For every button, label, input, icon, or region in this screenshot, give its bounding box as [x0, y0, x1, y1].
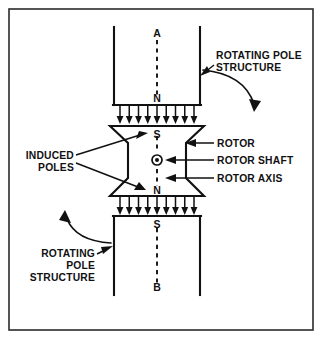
axis-label-rotor-bottom-pole: N: [153, 184, 161, 196]
rotor-shaft-dot: [155, 158, 159, 162]
axis-label-top-end: A: [153, 27, 161, 39]
axis-label-bottom-pole: S: [153, 218, 160, 230]
diagram-canvas: A N S N S B ROTATING POLE STRUCTURE ROTA…: [0, 0, 323, 340]
callout-bottom-line-1: ROTATING: [41, 248, 95, 259]
induced-poles-line-1: INDUCED: [26, 150, 74, 161]
rotor-shaft-symbol: [152, 155, 162, 165]
rotor-label: ROTOR: [217, 138, 255, 149]
callout-top-line-2: STRUCTURE: [216, 62, 281, 73]
rotor-axis-label: ROTOR AXIS: [217, 173, 283, 184]
flux-arrows-bottom-gap: [117, 197, 198, 215]
flux-arrows-top-gap: [117, 106, 198, 124]
callout-bottom-line-3: STRUCTURE: [30, 272, 95, 283]
callout-bottom-line-2: POLE: [66, 260, 95, 271]
axis-label-bottom-end: B: [153, 281, 161, 293]
axis-label-top-pole: N: [153, 92, 161, 104]
callout-top-line-1: ROTATING POLE: [216, 50, 302, 61]
axis-label-rotor-top-pole: S: [153, 128, 160, 140]
rotor-shaft-label: ROTOR SHAFT: [217, 155, 294, 166]
figure-root: A N S N S B ROTATING POLE STRUCTURE ROTA…: [0, 0, 323, 340]
induced-poles-line-2: POLES: [38, 162, 74, 173]
